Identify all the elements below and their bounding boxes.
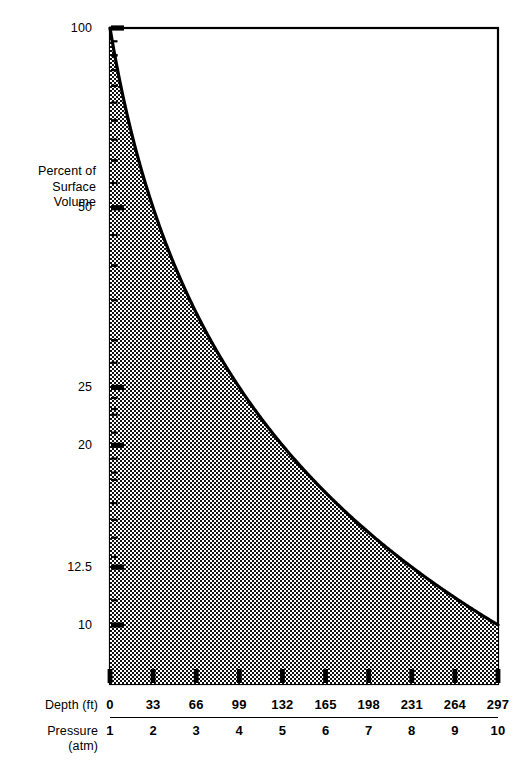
y-axis-minor-tick <box>111 207 118 209</box>
y-axis-tick-label: 12.5 <box>0 561 92 574</box>
y-axis-tick <box>111 385 124 390</box>
y-axis-minor-tick <box>111 85 118 87</box>
y-axis-tick-label: 10 <box>0 619 92 632</box>
x-axis-tick <box>108 669 113 683</box>
y-axis-minor-tick <box>111 299 118 301</box>
axis-table-divider <box>110 717 498 718</box>
y-axis-minor-tick <box>111 537 118 539</box>
x-axis-tick <box>280 669 285 683</box>
y-axis-title-line-1: Percent of <box>0 164 96 180</box>
y-axis-minor-tick <box>111 519 118 521</box>
y-axis-minor-tick <box>111 40 118 42</box>
y-axis-minor-tick <box>111 159 118 161</box>
depth-tick-value: 297 <box>468 698 514 711</box>
y-axis-minor-tick <box>111 139 118 141</box>
y-axis-tick-label: 100 <box>0 22 92 35</box>
y-axis-minor-tick <box>111 502 118 504</box>
x-axis-tick <box>323 669 328 683</box>
y-axis-minor-tick <box>111 362 118 364</box>
x-axis-tick <box>237 669 242 683</box>
y-axis-minor-tick <box>111 264 118 266</box>
y-axis-tick <box>111 25 124 30</box>
x-axis-tick <box>496 669 501 683</box>
y-axis-tick <box>111 565 124 570</box>
y-axis-minor-tick <box>111 479 118 481</box>
pressure-row-label-line-2: (atm) <box>0 739 98 754</box>
y-axis-minor-tick <box>111 599 118 601</box>
y-axis-minor-tick <box>111 432 118 434</box>
y-axis-tick-label: 50 <box>0 201 92 214</box>
y-axis-minor-tick <box>111 556 118 558</box>
y-axis-minor-tick <box>111 472 118 474</box>
x-axis-tick <box>452 669 457 683</box>
y-axis-minor-tick <box>111 101 118 103</box>
x-axis-table: Depth (ft) Pressure (atm) 01332663994132… <box>0 690 505 770</box>
y-axis-minor-tick <box>111 339 118 341</box>
y-axis-minor-tick <box>111 69 118 71</box>
y-axis-title-line-2: Surface <box>0 180 96 196</box>
y-axis-minor-tick <box>111 119 118 121</box>
y-axis-minor-tick <box>111 624 118 626</box>
y-axis-minor-tick <box>111 414 118 416</box>
y-axis-minor-tick <box>111 182 118 184</box>
y-axis-minor-tick <box>111 408 118 410</box>
y-axis-tick-label: 25 <box>0 381 92 394</box>
x-axis-tick <box>194 669 199 683</box>
x-axis-tick <box>366 669 371 683</box>
y-axis-minor-tick <box>111 234 118 236</box>
y-axis-tick-label: 20 <box>0 439 92 452</box>
y-axis-minor-tick <box>111 54 118 56</box>
y-axis-minor-tick <box>111 457 118 459</box>
y-axis-minor-tick <box>111 397 118 399</box>
y-axis-minor-tick <box>111 444 118 446</box>
x-axis-tick <box>151 669 156 683</box>
x-axis-tick <box>409 669 414 683</box>
pressure-tick-value: 10 <box>468 724 514 737</box>
